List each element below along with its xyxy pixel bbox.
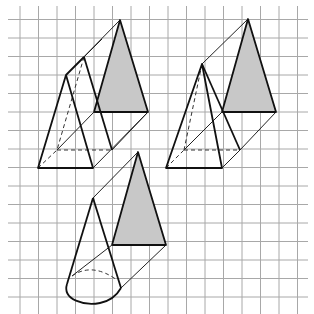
shaded-cross-section [222, 19, 276, 112]
cone-bottom [66, 152, 166, 304]
grid-paper [8, 6, 308, 314]
geometry-diagram [0, 0, 314, 314]
shaded-cross-section [94, 20, 148, 112]
shaded-cross-section [112, 152, 166, 245]
hidden-edges [166, 64, 240, 168]
